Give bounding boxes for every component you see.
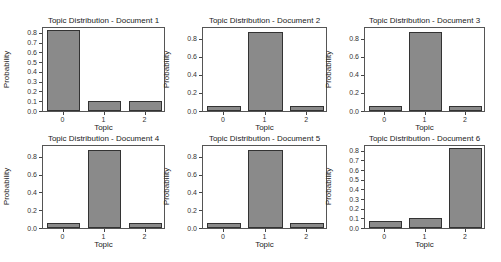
- bar-topic-0: [207, 223, 241, 228]
- x-tick-mark: [223, 229, 224, 232]
- plot-area: [364, 27, 485, 112]
- y-tick-mark: [361, 228, 364, 229]
- bar-topic-2: [290, 223, 324, 228]
- x-tick-label: 0: [57, 233, 69, 240]
- y-tick-mark: [39, 62, 42, 63]
- x-axis-label: Topic: [42, 240, 165, 249]
- subplot-title: Topic Distribution - Document 1: [42, 16, 165, 25]
- y-tick-label: 0.8: [337, 147, 359, 154]
- bar-topic-1: [88, 101, 122, 111]
- y-tick-label: 0.1: [337, 215, 359, 222]
- bar-topic-1: [409, 32, 442, 111]
- y-tick-mark: [39, 192, 42, 193]
- y-tick-label: 0.1: [15, 98, 37, 105]
- x-tick-mark: [145, 112, 146, 115]
- y-tick-mark: [361, 151, 364, 152]
- x-tick-mark: [265, 229, 266, 232]
- y-tick-label: 0.5: [15, 59, 37, 66]
- x-tick-label: 1: [259, 116, 271, 123]
- y-tick-mark: [39, 82, 42, 83]
- x-tick-label: 2: [300, 116, 312, 123]
- y-tick-label: 0.8: [175, 153, 197, 160]
- subplot-title: Topic Distribution - Document 5: [202, 134, 327, 143]
- bar-topic-1: [88, 150, 122, 228]
- y-tick-label: 0.2: [337, 205, 359, 212]
- x-tick-label: 1: [419, 116, 431, 123]
- y-tick-mark: [361, 199, 364, 200]
- y-tick-mark: [361, 75, 364, 76]
- x-tick-mark: [104, 112, 105, 115]
- x-tick-mark: [306, 229, 307, 232]
- y-tick-mark: [199, 228, 202, 229]
- y-tick-mark: [39, 157, 42, 158]
- y-tick-label: 0.0: [175, 225, 197, 232]
- bar-topic-2: [449, 106, 482, 111]
- bar-topic-2: [290, 106, 324, 111]
- y-axis-label: Probability: [324, 39, 333, 99]
- x-tick-label: 0: [57, 116, 69, 123]
- x-tick-mark: [63, 229, 64, 232]
- y-tick-label: 0.3: [337, 196, 359, 203]
- y-tick-mark: [39, 43, 42, 44]
- x-tick-label: 0: [378, 233, 390, 240]
- y-tick-mark: [39, 101, 42, 102]
- y-tick-mark: [39, 91, 42, 92]
- y-tick-label: 0.8: [337, 35, 359, 42]
- x-tick-mark: [425, 112, 426, 115]
- y-tick-mark: [199, 157, 202, 158]
- y-tick-mark: [361, 57, 364, 58]
- y-tick-label: 0.7: [337, 157, 359, 164]
- y-tick-mark: [199, 93, 202, 94]
- bar-topic-1: [409, 218, 442, 228]
- y-tick-label: 0.4: [175, 189, 197, 196]
- y-tick-label: 0.2: [337, 89, 359, 96]
- y-tick-mark: [39, 228, 42, 229]
- y-axis-label: Probability: [162, 157, 171, 217]
- y-tick-mark: [361, 180, 364, 181]
- y-tick-label: 0.0: [175, 108, 197, 115]
- y-axis-label: Probability: [324, 157, 333, 217]
- y-tick-mark: [361, 111, 364, 112]
- y-tick-label: 0.4: [337, 71, 359, 78]
- y-tick-mark: [199, 57, 202, 58]
- x-tick-label: 0: [378, 116, 390, 123]
- y-tick-mark: [39, 33, 42, 34]
- subplot-title: Topic Distribution - Document 4: [42, 134, 165, 143]
- plot-area: [364, 145, 485, 229]
- y-tick-mark: [39, 210, 42, 211]
- y-tick-mark: [199, 175, 202, 176]
- plot-area: [202, 145, 327, 229]
- bar-topic-0: [369, 221, 402, 228]
- x-tick-mark: [265, 112, 266, 115]
- y-tick-mark: [199, 192, 202, 193]
- y-tick-mark: [199, 39, 202, 40]
- plot-area: [202, 27, 327, 112]
- x-tick-label: 1: [98, 233, 110, 240]
- x-tick-mark: [465, 229, 466, 232]
- x-axis-label: Topic: [202, 240, 327, 249]
- y-tick-label: 0.8: [15, 153, 37, 160]
- y-tick-label: 0.0: [337, 108, 359, 115]
- x-tick-label: 1: [259, 233, 271, 240]
- plot-area: [42, 27, 165, 112]
- x-tick-label: 2: [139, 116, 151, 123]
- x-tick-mark: [465, 112, 466, 115]
- y-tick-mark: [39, 52, 42, 53]
- y-tick-label: 0.7: [15, 39, 37, 46]
- x-axis-label: Topic: [202, 123, 327, 132]
- y-tick-label: 0.6: [15, 49, 37, 56]
- x-tick-label: 2: [139, 233, 151, 240]
- bar-topic-1: [248, 150, 282, 228]
- y-tick-label: 0.3: [15, 78, 37, 85]
- y-tick-mark: [361, 160, 364, 161]
- y-tick-label: 0.2: [15, 88, 37, 95]
- y-axis-label: Probability: [162, 39, 171, 99]
- y-tick-label: 0.6: [175, 171, 197, 178]
- bar-topic-0: [207, 106, 241, 111]
- y-tick-label: 0.4: [15, 189, 37, 196]
- subplot-title: Topic Distribution - Document 2: [202, 16, 327, 25]
- subplot-title: Topic Distribution - Document 3: [364, 16, 485, 25]
- y-tick-label: 0.6: [337, 167, 359, 174]
- y-tick-label: 0.4: [337, 186, 359, 193]
- y-tick-label: 0.8: [175, 35, 197, 42]
